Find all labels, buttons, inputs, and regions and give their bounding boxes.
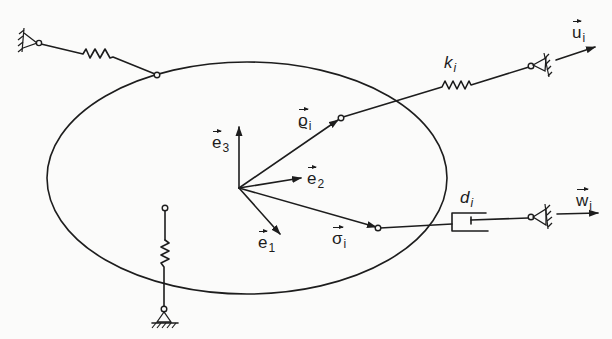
k-label: ki bbox=[444, 54, 456, 71]
bottom-spring bbox=[152, 205, 178, 328]
e3-label: e3 bbox=[212, 130, 229, 151]
moving-support-w-icon bbox=[533, 204, 552, 229]
rigid-body-ellipse bbox=[47, 62, 447, 294]
sigma-vector bbox=[239, 188, 376, 227]
diagram-canvas: e3 e2 e1 ϱi σi ki di ui wi bbox=[0, 0, 612, 339]
rho-label: ϱi bbox=[298, 108, 311, 129]
diagram-drawing bbox=[0, 0, 612, 339]
damper-d bbox=[375, 204, 598, 231]
e2-vector bbox=[239, 178, 301, 188]
spring-k bbox=[338, 47, 595, 121]
d-label: di bbox=[460, 189, 473, 206]
w-label: wi bbox=[576, 188, 592, 209]
moving-support-u-icon bbox=[533, 53, 552, 77]
sigma-label: σi bbox=[332, 226, 346, 247]
u-label: ui bbox=[572, 20, 585, 41]
e1-label: e1 bbox=[258, 230, 275, 251]
ground-support-icon bbox=[152, 312, 178, 328]
e2-label: e2 bbox=[307, 166, 324, 187]
wall-support-top-left-icon bbox=[18, 28, 37, 52]
w-arrow bbox=[557, 213, 598, 214]
e1-vector bbox=[239, 188, 280, 234]
top-left-spring bbox=[18, 28, 160, 78]
u-arrow bbox=[556, 47, 595, 60]
